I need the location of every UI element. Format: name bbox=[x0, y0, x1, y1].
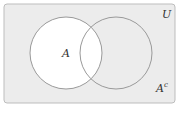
venn-diagram: U A A c bbox=[0, 0, 177, 113]
universe-label: U bbox=[162, 8, 172, 21]
complement-label: A bbox=[155, 82, 164, 95]
complement-superscript: c bbox=[164, 81, 168, 89]
set-a-label: A bbox=[61, 47, 70, 60]
